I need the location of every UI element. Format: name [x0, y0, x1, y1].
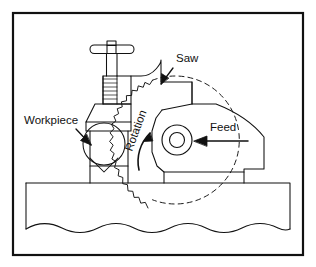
- saw-diagram: Workpiece Saw Feed Rotation: [0, 0, 316, 267]
- figure-page: Workpiece Saw Feed Rotation: [0, 0, 316, 267]
- workpiece-label: Workpiece: [24, 114, 78, 126]
- canvas-background: [0, 0, 316, 267]
- feed-label: Feed: [210, 121, 236, 133]
- saw-label: Saw: [176, 52, 199, 64]
